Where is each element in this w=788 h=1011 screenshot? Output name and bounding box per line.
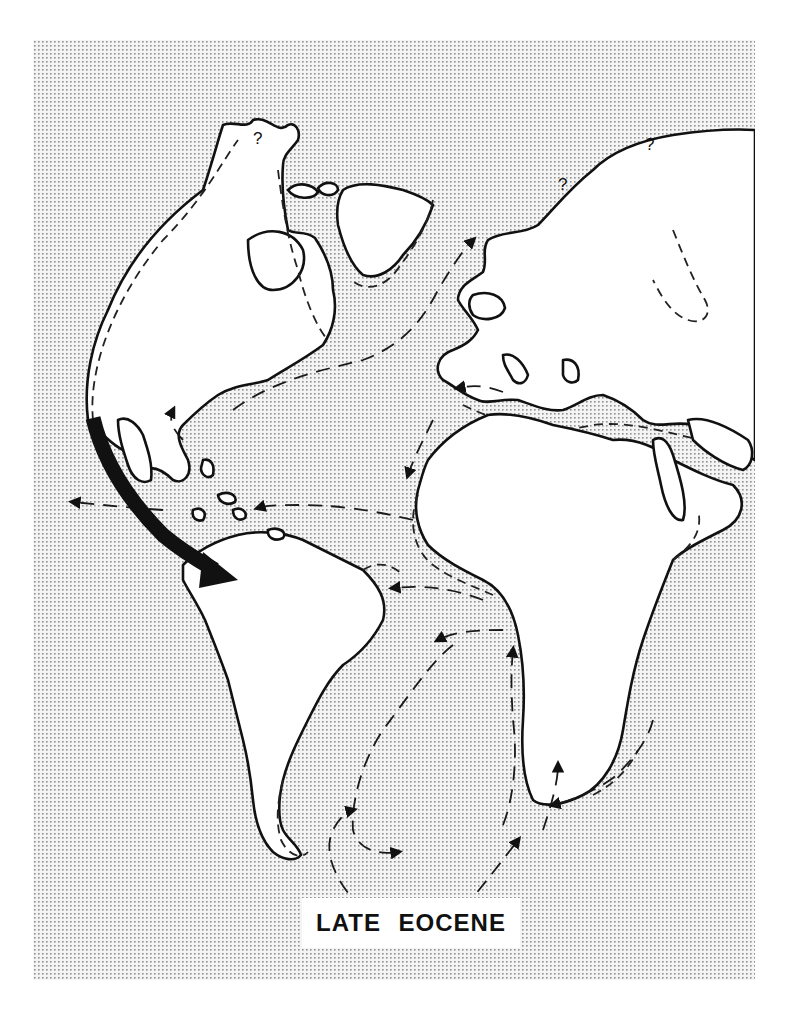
question-mark-north-america: ? bbox=[253, 129, 262, 148]
question-mark-scandinavia: ? bbox=[558, 175, 567, 194]
question-mark-siberia: ? bbox=[645, 135, 654, 154]
map-caption: LATE EOCENE bbox=[302, 898, 520, 948]
paleogeographic-map: ? ? ? bbox=[33, 40, 755, 980]
map-frame: ? ? ? bbox=[33, 40, 755, 980]
map-title: LATE EOCENE bbox=[316, 909, 506, 937]
